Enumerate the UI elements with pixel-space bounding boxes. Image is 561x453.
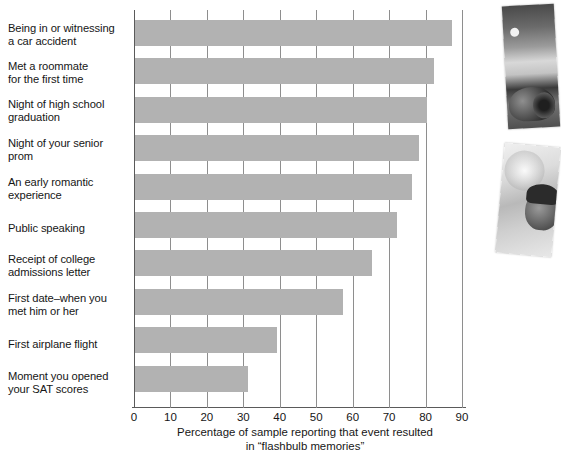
tick-label-30: 30 (237, 410, 250, 424)
car-photo-highlight (510, 28, 519, 37)
x-axis-title-line2: in “flashbulb memories” (120, 439, 490, 453)
category-label-7: First date–when you met him or her (8, 292, 128, 319)
category-label-7-line2: met him or her (8, 305, 128, 318)
tick-label-40: 40 (273, 410, 286, 424)
category-label-4-line1: An early romantic (8, 176, 128, 189)
category-label-1: Met a roommate for the first time (8, 60, 128, 87)
tick-label-20: 20 (200, 410, 213, 424)
bar-3 (135, 135, 419, 161)
car-accident-photo (502, 4, 560, 130)
grid-line-90 (462, 10, 463, 408)
tick-label-80: 80 (419, 410, 432, 424)
category-label-6-line1: Receipt of college (8, 253, 128, 266)
category-label-0-line1: Being in or witnessing (8, 22, 128, 35)
category-label-9-line2: your SAT scores (8, 383, 128, 396)
tick-label-50: 50 (310, 410, 323, 424)
category-label-column: Being in or witnessing a car accident Me… (0, 0, 128, 410)
person-outdoors-photo (495, 143, 560, 257)
tick-label-10: 10 (164, 410, 177, 424)
x-axis-title: Percentage of sample reporting that even… (120, 425, 490, 453)
category-label-5: Public speaking (8, 222, 128, 235)
bar-0 (135, 20, 452, 46)
bar-9 (135, 366, 248, 392)
bar-4 (135, 174, 412, 200)
bar-2 (135, 97, 427, 123)
tick-label-70: 70 (383, 410, 396, 424)
person-photo-hair (526, 183, 560, 206)
tick-label-0: 0 (131, 410, 137, 424)
category-label-3-line1: Night of your senior (8, 137, 128, 150)
bar-1 (135, 58, 434, 84)
category-label-2: Night of high school graduation (8, 98, 128, 125)
category-label-8: First airplane flight (8, 338, 128, 351)
category-label-5-line1: Public speaking (8, 222, 128, 235)
category-label-7-line1: First date–when you (8, 292, 128, 305)
category-label-8-line1: First airplane flight (8, 338, 128, 351)
category-label-2-line1: Night of high school (8, 98, 128, 111)
category-label-3: Night of your senior prom (8, 137, 128, 164)
category-label-2-line2: graduation (8, 111, 128, 124)
bar-6 (135, 250, 372, 276)
x-axis-line (132, 407, 466, 408)
category-label-0-line2: a car accident (8, 35, 128, 48)
category-label-1-line1: Met a roommate (8, 60, 128, 73)
category-label-6: Receipt of college admissions letter (8, 253, 128, 280)
category-label-1-line2: for the first time (8, 73, 128, 86)
tick-label-90: 90 (456, 410, 469, 424)
category-label-0: Being in or witnessing a car accident (8, 22, 128, 49)
category-label-6-line2: admissions letter (8, 266, 128, 279)
category-label-9: Moment you opened your SAT scores (8, 370, 128, 397)
plot-area (134, 10, 462, 408)
category-label-3-line2: prom (8, 150, 128, 163)
category-label-9-line1: Moment you opened (8, 370, 128, 383)
x-axis-tick-labels: 0102030405060708090 (134, 410, 474, 426)
tick-label-60: 60 (346, 410, 359, 424)
car-photo-wheel (532, 92, 555, 119)
bar-7 (135, 289, 343, 315)
bar-8 (135, 327, 277, 353)
x-axis-title-line1: Percentage of sample reporting that even… (120, 425, 490, 439)
category-label-4: An early romantic experience (8, 176, 128, 203)
category-label-4-line2: experience (8, 189, 128, 202)
bar-5 (135, 212, 397, 238)
